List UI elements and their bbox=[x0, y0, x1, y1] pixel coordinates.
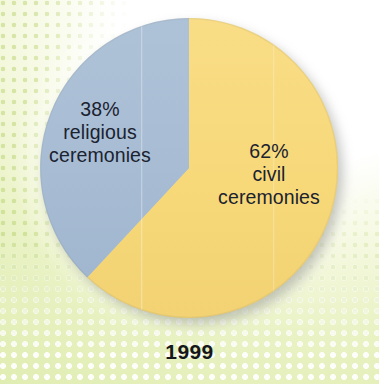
chart-canvas: 38% religious ceremonies 62% civil cerem… bbox=[0, 0, 379, 384]
slice-label-religious: 38% religious ceremonies bbox=[26, 98, 174, 166]
year-label: 1999 bbox=[0, 340, 379, 364]
slice-label-civil: 62% civil ceremonies bbox=[196, 140, 342, 208]
